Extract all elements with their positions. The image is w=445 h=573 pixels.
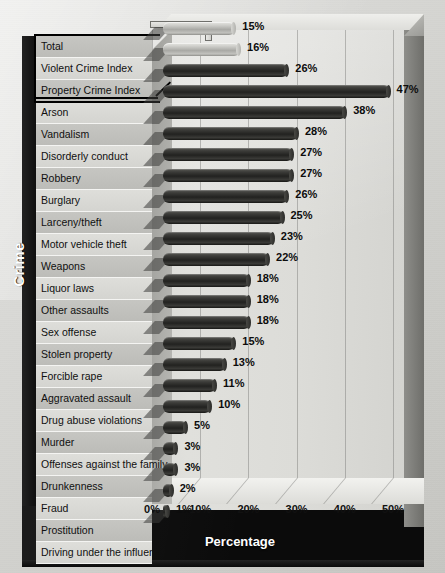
bar: [163, 148, 293, 161]
bar-end-cap: [246, 316, 251, 329]
bar-value-label: 18%: [257, 314, 279, 326]
bar: [163, 316, 250, 329]
x-tick-label: 40%: [334, 503, 356, 515]
bar-row: 26%: [163, 60, 443, 81]
bar-row: 27%: [163, 144, 443, 165]
bar-value-label: 23%: [281, 230, 303, 242]
bar-value-label: 47%: [397, 83, 419, 95]
bar-end-cap: [294, 127, 299, 140]
bar-value-label: 13%: [233, 356, 255, 368]
bar: [163, 22, 235, 35]
bar: [163, 64, 288, 77]
bar-value-label: 18%: [257, 272, 279, 284]
bar-row: 10%: [163, 396, 443, 417]
bar-row: 22%: [163, 249, 443, 270]
x-axis-title: Percentage: [205, 534, 275, 549]
bar-row: 27%: [163, 165, 443, 186]
bar: [163, 211, 284, 224]
bar-row: 5%: [163, 417, 443, 438]
bar-row: 23%: [163, 228, 443, 249]
x-tick-label: 0%: [144, 503, 160, 515]
bar-series: 15%16%26%47%38%28%27%27%26%25%23%22%18%1…: [0, 0, 445, 573]
bar-end-cap: [169, 484, 174, 497]
bar: [163, 190, 288, 203]
x-axis-tick-labels: 0%10%20%30%40%50%: [0, 503, 445, 521]
bar-row: 11%: [163, 375, 443, 396]
bar-value-label: 26%: [295, 62, 317, 74]
bar-value-label: 27%: [300, 146, 322, 158]
bar-row: 15%: [163, 333, 443, 354]
bar-value-label: 2%: [180, 482, 196, 494]
bar-value-label: 10%: [218, 398, 240, 410]
bar-end-cap: [289, 148, 294, 161]
bar-end-cap: [212, 379, 217, 392]
bar-value-label: 3%: [184, 440, 200, 452]
bar-end-cap: [284, 64, 289, 77]
bar: [163, 106, 346, 119]
bar-end-cap: [236, 43, 241, 56]
bar-row: 15%: [163, 18, 443, 39]
bar: [163, 274, 250, 287]
bar-end-cap: [280, 211, 285, 224]
bar-value-label: 5%: [194, 419, 210, 431]
bar-value-label: 25%: [291, 209, 313, 221]
bar: [163, 295, 250, 308]
bar: [163, 169, 293, 182]
bar-end-cap: [207, 400, 212, 413]
bar-end-cap: [231, 337, 236, 350]
bar: [163, 127, 298, 140]
bar-row: 13%: [163, 354, 443, 375]
bar-end-cap: [246, 295, 251, 308]
x-tick-label: 50%: [382, 503, 404, 515]
bar-end-cap: [289, 169, 294, 182]
bar: [163, 85, 390, 98]
bar: [163, 43, 240, 56]
bar-row: 3%: [163, 459, 443, 480]
bar-value-label: 38%: [353, 104, 375, 116]
bar-row: 18%: [163, 270, 443, 291]
bar-row: 18%: [163, 312, 443, 333]
bar: [163, 358, 226, 371]
bar-value-label: 22%: [276, 251, 298, 263]
bar-value-label: 18%: [257, 293, 279, 305]
bar-end-cap: [231, 22, 236, 35]
bar-end-cap: [386, 85, 391, 98]
bar-row: 47%: [163, 81, 443, 102]
bar-end-cap: [270, 232, 275, 245]
bar-row: 2%: [163, 480, 443, 501]
bar: [163, 400, 211, 413]
bar-value-label: 15%: [242, 335, 264, 347]
bar-value-label: 16%: [247, 41, 269, 53]
bar-row: 16%: [163, 39, 443, 60]
bar-end-cap: [173, 463, 178, 476]
bar-value-label: 11%: [223, 377, 244, 389]
bar: [163, 379, 216, 392]
x-tick-label: 10%: [189, 503, 211, 515]
bar-row: 26%: [163, 186, 443, 207]
bar-end-cap: [284, 190, 289, 203]
bar-end-cap: [342, 106, 347, 119]
bar-end-cap: [246, 274, 251, 287]
bar: [163, 337, 235, 350]
bar-value-label: 26%: [295, 188, 317, 200]
x-axis-title-wrap: Percentage: [60, 532, 420, 550]
bar-row: 3%: [163, 438, 443, 459]
bar-value-label: 27%: [300, 167, 322, 179]
bar-value-label: 3%: [184, 461, 200, 473]
bar-row: 18%: [163, 291, 443, 312]
bar-end-cap: [173, 442, 178, 455]
bar-end-cap: [183, 421, 188, 434]
x-tick-label: 20%: [237, 503, 259, 515]
bar-row: 25%: [163, 207, 443, 228]
bar: [163, 232, 274, 245]
bar-row: 28%: [163, 123, 443, 144]
chart-stage: Crime TotalViolent Crime IndexProperty C…: [0, 0, 445, 573]
bar-value-label: 28%: [305, 125, 327, 137]
bar-end-cap: [265, 253, 270, 266]
bar-end-cap: [222, 358, 227, 371]
x-tick-label: 30%: [286, 503, 308, 515]
bar: [163, 253, 269, 266]
bar-row: 38%: [163, 102, 443, 123]
bar-value-label: 15%: [242, 20, 264, 32]
